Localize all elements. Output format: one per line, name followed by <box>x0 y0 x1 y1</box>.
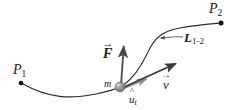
force-vector-letter: F→ <box>103 47 112 61</box>
path-label-subscript: 1-2 <box>192 36 204 46</box>
path-label: L1-2 <box>184 31 204 46</box>
start-point-letter: P <box>13 62 22 77</box>
end-point-dot <box>219 21 224 26</box>
end-point-label: P2 <box>209 2 222 18</box>
path-label-letter: L <box>184 30 192 45</box>
velocity-vector-accent: → <box>161 70 171 80</box>
physics-path-diagram: P1 P2 m L1-2 F→ v→ u^t <box>0 0 238 110</box>
mass-label: m <box>104 79 111 89</box>
diagram-canvas <box>0 0 238 110</box>
path-label-leader-line <box>161 37 184 38</box>
unit-tangent-letter: u^ <box>129 94 135 105</box>
mass-particle-highlight <box>117 84 120 86</box>
end-point-letter: P <box>209 1 218 16</box>
start-point-dot <box>19 81 24 86</box>
velocity-vector-letter: v→ <box>163 78 169 91</box>
unit-tangent-label: u^t <box>129 94 137 107</box>
force-vector-label: F→ <box>103 47 112 61</box>
velocity-vector-label: v→ <box>163 78 169 91</box>
end-point-subscript: 2 <box>218 8 223 18</box>
mass-particle <box>115 82 125 92</box>
start-point-label: P1 <box>13 63 26 79</box>
unit-tangent-accent: ^ <box>130 87 134 96</box>
force-vector-arrow <box>121 46 124 86</box>
force-vector-accent: → <box>102 38 113 49</box>
unit-tangent-vector-arrow <box>122 79 147 89</box>
start-point-subscript: 1 <box>22 69 27 79</box>
